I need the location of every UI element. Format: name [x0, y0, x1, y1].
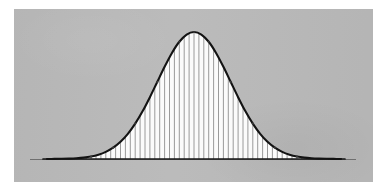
curve-node: [230, 81, 232, 83]
riemann-fill-lines: [47, 28, 341, 159]
curve-node: [156, 81, 158, 83]
curve-node: [112, 147, 114, 149]
figure-root: [0, 0, 386, 190]
curve-node: [208, 41, 210, 43]
curve-node: [252, 123, 254, 125]
curve-node: [296, 155, 298, 157]
curve-node: [193, 31, 195, 33]
curve-node: [274, 147, 276, 149]
curve-node: [178, 41, 180, 43]
curve-node: [134, 123, 136, 125]
curve-node: [90, 155, 92, 157]
normal-distribution-chart: [0, 0, 386, 190]
